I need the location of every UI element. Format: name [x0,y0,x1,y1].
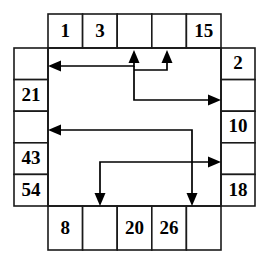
arrow-head-down-left [95,193,106,206]
arrow-head-up-right [162,50,173,63]
arrow-path-down-right [134,66,214,100]
arrow-head-left-mid [48,125,61,136]
top-cell-2[interactable] [117,14,152,48]
left-cell-4-label: 54 [22,179,42,200]
arrow-layer [48,50,221,206]
left-column: 21 43 54 [14,48,48,206]
border-grid-svg: 1 3 15 8 20 26 21 [0,0,268,264]
diagram-canvas: 1 3 15 8 20 26 21 [0,0,268,264]
right-cell-2-label: 10 [229,115,248,136]
right-cell-0-label: 2 [233,52,243,73]
bottom-cell-2-label: 20 [125,217,144,238]
arrow-path-branch-up-right [134,58,167,70]
top-cell-4-label: 15 [194,20,213,41]
arrow-head-left-top [48,61,61,72]
bottom-cell-3-label: 26 [160,217,179,238]
arrow-head-right-upper [208,95,221,106]
top-cell-3[interactable] [152,14,187,48]
top-row: 1 3 15 [48,14,221,48]
bottom-cell-4[interactable] [186,206,221,250]
right-cell-3[interactable] [221,143,255,175]
arrow-head-down-right [187,193,198,206]
bottom-row: 8 20 26 [48,206,221,250]
left-cell-2[interactable] [14,111,48,143]
arrow-head-up-left [129,50,140,63]
arrow-head-right-lower [208,157,221,168]
right-cell-4-label: 18 [229,179,248,200]
arrow-path-up-left [52,58,134,66]
top-cell-0-label: 1 [61,20,71,41]
right-cell-1[interactable] [221,80,255,112]
left-cell-3-label: 43 [22,147,41,168]
left-cell-1-label: 21 [22,84,41,105]
bottom-cell-0-label: 8 [61,217,71,238]
left-cell-0[interactable] [14,48,48,80]
arrow-path-left-then-down [54,130,192,200]
right-column: 2 10 18 [221,48,255,206]
bottom-cell-1[interactable] [83,206,118,250]
top-cell-1-label: 3 [95,20,105,41]
